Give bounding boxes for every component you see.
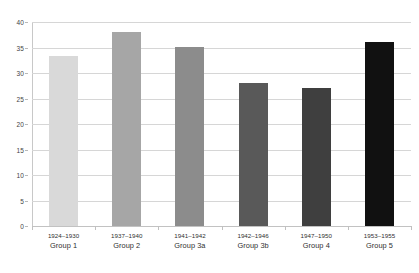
x-axis-category-label: 1942–1946Group 3b [222, 231, 285, 250]
x-axis-group-name: Group 1 [32, 241, 95, 251]
x-axis-year-range: 1937–1940 [95, 231, 158, 241]
y-axis-tick-label: 25 [17, 96, 24, 103]
bar-slot [348, 22, 411, 226]
x-axis-tick [158, 226, 159, 230]
y-axis-tick-label: 35 [17, 45, 24, 52]
bar-slot [222, 22, 285, 226]
y-axis-tick [25, 22, 28, 23]
x-axis-tick [32, 226, 33, 230]
x-axis-category-label: 1953–1955Group 5 [348, 231, 411, 250]
y-axis-tick [25, 73, 28, 74]
bar[interactable] [365, 42, 394, 226]
x-axis-year-range: 1942–1946 [222, 231, 285, 241]
x-axis-labels: 1924–1930Group 11937–1940Group 21941–194… [32, 231, 411, 250]
y-axis-tick-label: 30 [17, 70, 24, 77]
x-axis-group-name: Group 4 [285, 241, 348, 251]
x-axis-year-range: 1947–1950 [285, 231, 348, 241]
y-axis-tick-label: 20 [17, 121, 24, 128]
y-axis-tick [25, 175, 28, 176]
bar-slot [32, 22, 95, 226]
x-axis-category-label: 1937–1940Group 2 [95, 231, 158, 250]
bar-chart: 0510152025303540 1924–1930Group 11937–19… [0, 0, 419, 273]
bar[interactable] [302, 88, 331, 226]
y-axis-tick [25, 48, 28, 49]
y-axis-tick [25, 99, 28, 100]
x-axis-group-name: Group 3a [158, 241, 221, 251]
bar-slot [95, 22, 158, 226]
y-axis-tick-label: 5 [20, 198, 24, 205]
y-axis-tick [25, 124, 28, 125]
x-axis-tick [348, 226, 349, 230]
y-axis-tick-label: 0 [20, 223, 24, 230]
y-axis-tick [25, 201, 28, 202]
bar[interactable] [239, 83, 268, 226]
bar-slot [158, 22, 221, 226]
x-axis-year-range: 1924–1930 [32, 231, 95, 241]
x-axis-tick [411, 226, 412, 230]
plot-area [32, 22, 411, 226]
bar-slot [285, 22, 348, 226]
bar[interactable] [175, 47, 204, 226]
y-axis-tick-label: 40 [17, 19, 24, 26]
x-axis-category-label: 1941–1942Group 3a [158, 231, 221, 250]
x-axis-year-range: 1953–1955 [348, 231, 411, 241]
y-axis-tick [25, 150, 28, 151]
y-axis-tick-label: 15 [17, 147, 24, 154]
x-axis-group-name: Group 5 [348, 241, 411, 251]
bar[interactable] [49, 56, 78, 226]
bar[interactable] [112, 32, 141, 226]
x-axis-group-name: Group 2 [95, 241, 158, 251]
x-axis-tick [222, 226, 223, 230]
x-axis-group-name: Group 3b [222, 241, 285, 251]
y-axis-tick [25, 226, 28, 227]
x-axis-category-label: 1924–1930Group 1 [32, 231, 95, 250]
y-axis-labels: 0510152025303540 [0, 22, 28, 226]
bar-series [32, 22, 411, 226]
y-axis-tick-label: 10 [17, 172, 24, 179]
x-axis-category-label: 1947–1950Group 4 [285, 231, 348, 250]
x-axis-tick [95, 226, 96, 230]
x-axis-year-range: 1941–1942 [158, 231, 221, 241]
x-axis-tick [285, 226, 286, 230]
